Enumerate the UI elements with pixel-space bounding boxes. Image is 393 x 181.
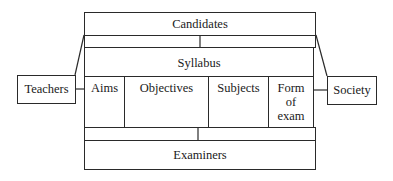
- examiners-band: [84, 127, 316, 141]
- candidates-label: Candidates: [85, 17, 315, 31]
- teachers-box: Teachers: [17, 75, 76, 104]
- component-aims: Aims: [84, 76, 125, 128]
- aims-label: Aims: [85, 81, 124, 95]
- society-box: Society: [327, 76, 377, 105]
- form-of-exam-line-2: of: [269, 95, 313, 109]
- form-of-exam-line-3: exam: [269, 109, 313, 123]
- component-objectives: Objectives: [124, 76, 209, 128]
- syllabus-label: Syllabus: [85, 56, 313, 70]
- society-diagonal-connector: [316, 35, 327, 76]
- component-subjects: Subjects: [208, 76, 269, 128]
- society-label: Society: [328, 83, 376, 97]
- teachers-diagonal-connector: [75, 35, 84, 75]
- examiners-box: Examiners: [84, 140, 316, 170]
- candidates-box: Candidates: [84, 12, 316, 36]
- examiners-label: Examiners: [85, 148, 315, 162]
- teachers-label: Teachers: [18, 82, 75, 96]
- subjects-label: Subjects: [209, 81, 268, 95]
- objectives-label: Objectives: [125, 81, 208, 95]
- component-form-of-exam: Form of exam: [268, 76, 314, 128]
- form-of-exam-line-1: Form: [269, 81, 313, 95]
